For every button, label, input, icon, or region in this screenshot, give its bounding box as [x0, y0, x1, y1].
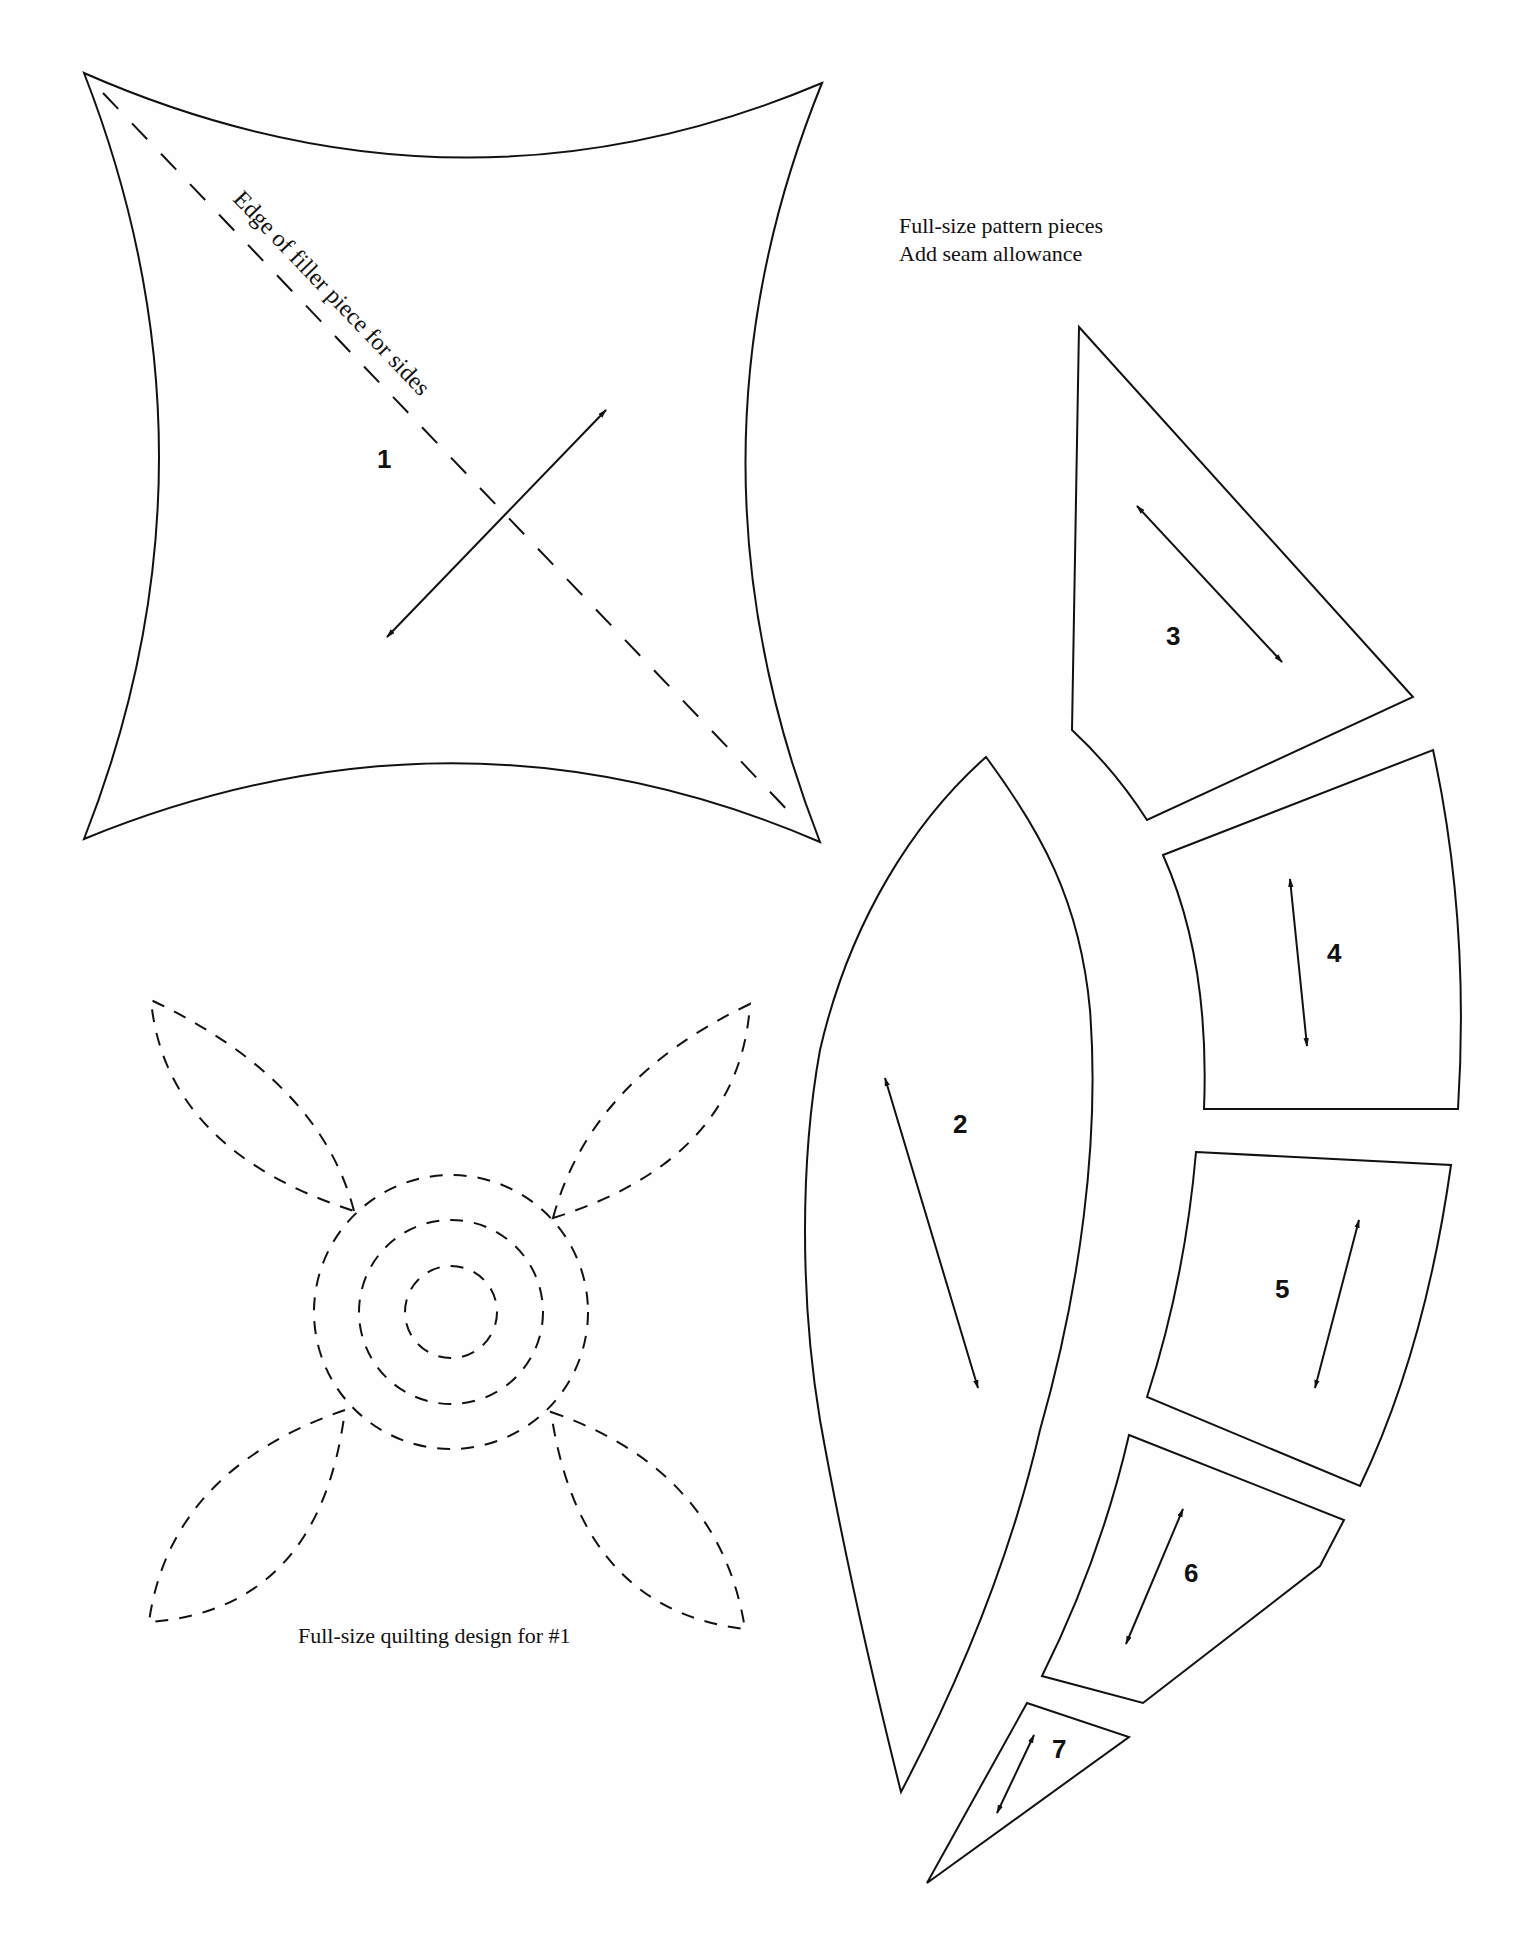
piece-5-number: 5 — [1275, 1274, 1289, 1304]
piece-4-number: 4 — [1327, 938, 1342, 968]
grainline-arrow-icon — [1315, 1220, 1359, 1388]
pattern-piece-3: 3 — [1072, 327, 1413, 820]
quilting-middle-circle — [359, 1220, 543, 1404]
pattern-piece-6: 6 — [1042, 1435, 1344, 1703]
piece-7-number: 7 — [1052, 1734, 1066, 1764]
pattern-piece-4: 4 — [1163, 750, 1461, 1109]
header-note-line-2: Add seam allowance — [899, 241, 1082, 266]
filler-edge-dashed-line — [103, 93, 795, 818]
piece-7-outline — [927, 1703, 1129, 1883]
quilting-leaf-bottom-right — [551, 1412, 745, 1629]
piece-3-number: 3 — [1166, 621, 1180, 651]
quilting-inner-circle — [405, 1266, 497, 1358]
grainline-arrow-icon — [1290, 879, 1307, 1046]
piece-5-outline — [1147, 1152, 1451, 1486]
filler-edge-label: Edge of filler piece for sides — [228, 185, 435, 400]
pattern-page: 1 Edge of filler piece for sides 2 3 4 5 — [0, 0, 1525, 1944]
piece-4-outline — [1163, 750, 1461, 1109]
quilting-outer-circle — [314, 1175, 588, 1449]
pattern-piece-2: 2 — [805, 757, 1093, 1792]
pattern-piece-1: 1 Edge of filler piece for sides — [84, 73, 822, 842]
quilting-leaf-bottom-left — [149, 1410, 345, 1622]
quilting-leaf-top-left — [151, 1000, 354, 1211]
piece-6-number: 6 — [1184, 1558, 1198, 1588]
grainline-arrow-icon — [1126, 1509, 1183, 1644]
quilting-leaf-top-right — [553, 1004, 750, 1218]
header-note: Full-size pattern pieces Add seam allowa… — [899, 212, 1103, 268]
grainline-arrow-icon — [387, 410, 606, 637]
quilting-design — [149, 1000, 750, 1629]
pattern-piece-5: 5 — [1147, 1152, 1451, 1486]
pattern-artwork: 1 Edge of filler piece for sides 2 3 4 5 — [0, 0, 1525, 1944]
piece-1-number: 1 — [377, 444, 391, 474]
piece-2-outline — [805, 757, 1093, 1792]
pattern-piece-7: 7 — [927, 1703, 1129, 1883]
grainline-arrow-icon — [1137, 506, 1282, 662]
piece-3-outline — [1072, 327, 1413, 820]
piece-2-number: 2 — [953, 1109, 967, 1139]
quilting-caption: Full-size quilting design for #1 — [298, 1622, 571, 1650]
header-note-line-1: Full-size pattern pieces — [899, 213, 1103, 238]
